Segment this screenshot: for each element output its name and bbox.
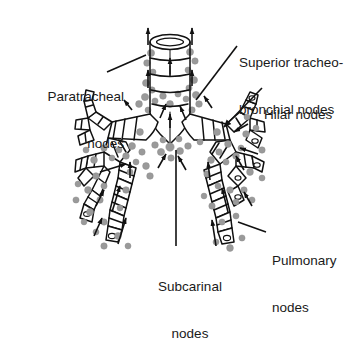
label-pulmonary-line1: Pulmonary bbox=[272, 253, 360, 269]
label-paratracheal-nodes: Paratracheal nodes bbox=[0, 58, 124, 167]
subcarinal-node bbox=[166, 143, 174, 151]
label-paratracheal-line2: nodes bbox=[0, 136, 124, 152]
label-hilar-nodes: Hilar nodes bbox=[264, 76, 360, 138]
label-subcarinal-line1: Subcarinal bbox=[128, 279, 252, 295]
label-subcarinal-line2: nodes bbox=[128, 326, 252, 342]
label-hilar-line1: Hilar nodes bbox=[264, 107, 360, 123]
label-paratracheal-line1: Paratracheal bbox=[0, 89, 124, 105]
label-pulmonary-nodes: Pulmonary nodes bbox=[272, 222, 360, 331]
trachea-superior-opening bbox=[150, 35, 190, 50]
label-superior-tracheobronchial-line1: Superior tracheo- bbox=[239, 55, 360, 71]
label-subcarinal-nodes: Subcarinal nodes bbox=[128, 248, 252, 342]
label-pulmonary-line2: nodes bbox=[272, 300, 360, 316]
